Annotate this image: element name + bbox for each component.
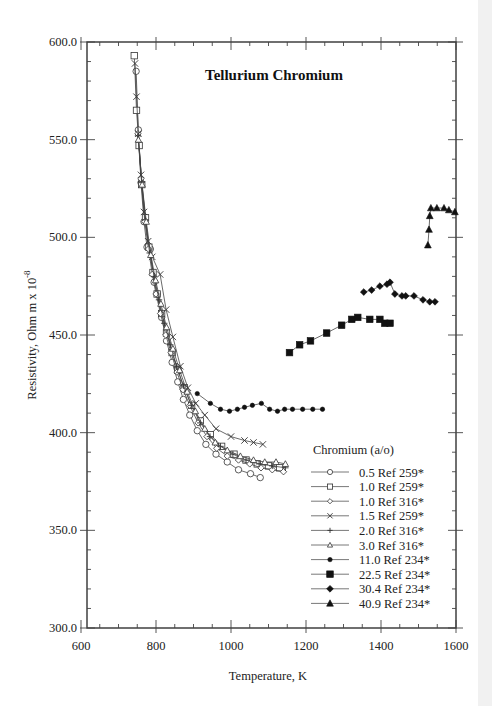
diamond-filled-marker-icon xyxy=(432,298,439,305)
x-tick-label: 800 xyxy=(147,639,166,653)
legend-entry: 1.5 Ref 259* xyxy=(311,509,424,523)
x-marker-icon xyxy=(202,412,208,418)
circle-open-marker-icon xyxy=(133,68,139,74)
y-axis-label-exponent: -8 xyxy=(22,270,32,278)
legend-entry: 1.0 Ref 316* xyxy=(311,495,424,509)
y-tick-label: 550.0 xyxy=(49,133,77,147)
x-marker-icon xyxy=(170,334,176,340)
legend-entry: 0.5 Ref 259* xyxy=(311,466,424,480)
x-tick-label: 1200 xyxy=(294,639,319,653)
circle-filled-marker-icon xyxy=(242,405,246,409)
circle-filled-marker-icon xyxy=(250,403,254,407)
legend-entry: 40.9 Ref 234* xyxy=(311,597,430,611)
chart-title: Tellurium Chromium xyxy=(205,67,343,83)
circle-open-marker-icon xyxy=(180,396,186,402)
y-axis-label-text: Resistivity, Ohm m x 10 xyxy=(25,278,39,400)
circle-filled-marker-icon xyxy=(311,407,315,411)
x-tick-labels: 6008001000120014001600 xyxy=(72,639,469,653)
legend-entry: 30.4 Ref 234* xyxy=(311,582,430,596)
series-11-0 xyxy=(195,391,325,413)
legend-label: 0.5 Ref 259* xyxy=(359,466,424,480)
series-line xyxy=(134,56,279,468)
legend-label: 2.0 Ref 316* xyxy=(359,524,424,538)
x-tick-label: 1600 xyxy=(444,639,469,653)
x-marker-icon xyxy=(260,441,266,447)
legend: Chromium (a/o) 0.5 Ref 259*1.0 Ref 259*1… xyxy=(311,443,430,611)
series-1-0 xyxy=(135,131,287,475)
circle-filled-marker-icon xyxy=(328,557,332,561)
data-series xyxy=(131,52,458,480)
circle-filled-marker-icon xyxy=(320,407,324,411)
triangle-filled-marker-icon xyxy=(424,242,431,248)
diamond-filled-marker-icon xyxy=(391,291,398,298)
square-open-marker-icon xyxy=(327,484,332,489)
legend-title: Chromium (a/o) xyxy=(313,443,394,457)
legend-label: 40.9 Ref 234* xyxy=(359,597,430,611)
square-filled-marker-icon xyxy=(387,320,394,327)
circle-open-marker-icon xyxy=(194,428,200,434)
x-tick-label: 600 xyxy=(72,639,91,653)
circle-open-marker-icon xyxy=(187,412,193,418)
legend-label: 22.5 Ref 234* xyxy=(359,568,430,582)
legend-label: 1.0 Ref 259* xyxy=(359,480,424,494)
legend-entry: 2.0 Ref 316* xyxy=(311,524,424,538)
square-filled-marker-icon xyxy=(323,330,330,337)
square-open-marker-icon xyxy=(133,107,139,113)
legend-entry: 3.0 Ref 316* xyxy=(311,539,424,553)
series-30-4 xyxy=(360,279,438,305)
diamond-filled-marker-icon xyxy=(360,289,367,296)
circle-open-marker-icon xyxy=(247,470,253,476)
square-filled-marker-icon xyxy=(354,314,361,321)
y-tick-label: 300.0 xyxy=(49,621,77,635)
y-tick-label: 500.0 xyxy=(49,230,77,244)
square-filled-marker-icon xyxy=(327,571,334,578)
diamond-filled-marker-icon xyxy=(420,296,427,303)
square-filled-marker-icon xyxy=(348,316,355,323)
square-filled-marker-icon xyxy=(286,349,293,356)
x-tick-label: 1400 xyxy=(369,639,394,653)
x-axis-label: Temperature, K xyxy=(229,669,307,683)
legend-label: 30.4 Ref 234* xyxy=(359,582,430,596)
diamond-filled-marker-icon xyxy=(368,287,375,294)
diamond-filled-marker-icon xyxy=(411,293,418,300)
legend-label: 11.0 Ref 234* xyxy=(359,553,430,567)
circle-filled-marker-icon xyxy=(227,409,231,413)
series-40-9 xyxy=(424,204,458,248)
legend-entry: 11.0 Ref 234* xyxy=(311,553,430,567)
x-tick-label: 1000 xyxy=(219,639,244,653)
series-22-5 xyxy=(286,314,393,356)
x-marker-icon xyxy=(228,433,234,439)
circle-filled-marker-icon xyxy=(275,409,279,413)
circle-open-marker-icon xyxy=(257,474,263,480)
circle-open-marker-icon xyxy=(203,441,209,447)
plus-marker-icon xyxy=(327,528,332,533)
circle-filled-marker-icon xyxy=(259,401,263,405)
series-1-0 xyxy=(131,52,283,471)
legend-label: 1.5 Ref 259* xyxy=(359,509,424,523)
series-line xyxy=(135,64,263,445)
y-tick-labels: 300.0350.0400.0450.0500.0550.0600.0 xyxy=(49,35,77,635)
x-marker-icon xyxy=(241,437,247,443)
series-line xyxy=(428,208,455,245)
circle-filled-marker-icon xyxy=(282,407,286,411)
y-tick-label: 450.0 xyxy=(49,328,77,342)
circle-filled-marker-icon xyxy=(218,407,222,411)
y-axis-label: Resistivity, Ohm m x 10-8 xyxy=(22,270,39,400)
square-filled-marker-icon xyxy=(296,341,303,348)
x-marker-icon xyxy=(250,439,256,445)
y-tick-label: 350.0 xyxy=(49,523,77,537)
circle-open-marker-icon xyxy=(327,469,332,474)
circle-filled-marker-icon xyxy=(267,407,271,411)
diamond-filled-marker-icon xyxy=(327,585,334,592)
circle-filled-marker-icon xyxy=(195,391,199,395)
square-filled-marker-icon xyxy=(307,338,314,345)
chart-canvas: 6008001000120014001600 300.0350.0400.045… xyxy=(0,0,492,706)
circle-open-marker-icon xyxy=(235,467,241,473)
triangle-filled-marker-icon xyxy=(426,226,433,232)
circle-filled-marker-icon xyxy=(300,407,304,411)
triangle-filled-marker-icon xyxy=(426,212,433,218)
square-filled-marker-icon xyxy=(366,316,373,323)
diamond-open-marker-icon xyxy=(224,453,230,459)
circle-filled-marker-icon xyxy=(208,401,212,405)
y-tick-label: 600.0 xyxy=(49,35,77,49)
